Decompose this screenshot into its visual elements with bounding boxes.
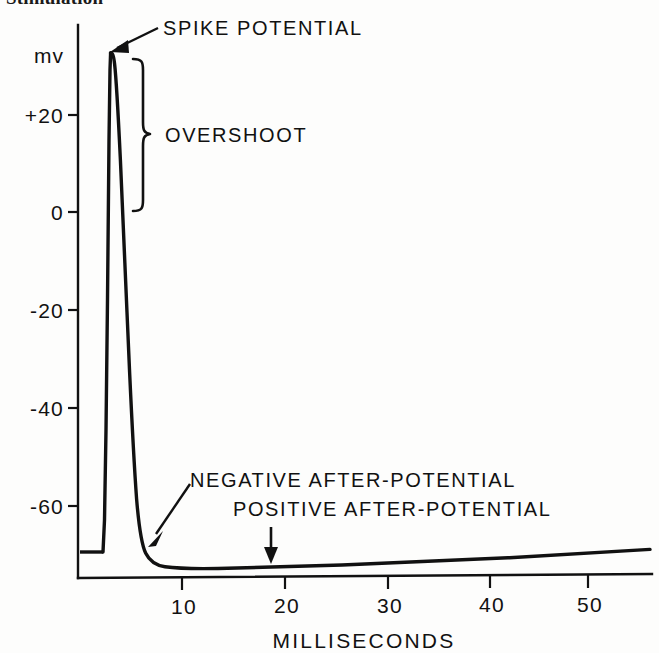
figure-root: Stimulation mv +20 0 -20 -40 -60 (0, 0, 659, 653)
overshoot-brace (133, 59, 150, 211)
trace-depolarisation-limb (103, 53, 111, 552)
y-axis-tick-labels: mv +20 0 -20 -40 -60 (25, 44, 64, 518)
x-axis-line (78, 574, 652, 578)
positive-after-potential-label: POSITIVE AFTER-POTENTIAL (233, 498, 551, 520)
positive-after-potential-annotation: POSITIVE AFTER-POTENTIAL (233, 498, 551, 564)
x-axis-title: MILLISECONDS (273, 629, 456, 652)
negative-after-potential-arrow-shaft (156, 484, 190, 534)
spike-potential-label: SPIKE POTENTIAL (163, 17, 363, 39)
spike-potential-annotation: SPIKE POTENTIAL (110, 17, 363, 53)
x-tick-label-10: 10 (171, 595, 197, 618)
y-tick-label-minus20: -20 (30, 299, 64, 322)
y-tick-label-minus60: -60 (30, 495, 64, 518)
axis-lines (78, 25, 652, 578)
x-axis-tick-labels: 10 20 30 40 50 (171, 593, 603, 618)
spike-potential-arrowhead (110, 40, 129, 53)
overshoot-annotation: OVERSHOOT (133, 59, 307, 211)
negative-after-potential-label: NEGATIVE AFTER-POTENTIAL (190, 469, 516, 491)
x-tick-label-40: 40 (479, 593, 505, 616)
x-tick-label-30: 30 (377, 594, 403, 617)
x-tick-label-20: 20 (274, 594, 300, 617)
overshoot-label: OVERSHOOT (165, 124, 307, 146)
y-axis-unit-label: mv (34, 44, 64, 67)
positive-after-potential-arrowhead (264, 547, 278, 564)
action-potential-chart: mv +20 0 -20 -40 -60 10 20 30 40 50 MILL… (0, 0, 659, 653)
y-tick-label-plus20: +20 (25, 104, 64, 127)
y-tick-label-zero: 0 (51, 201, 64, 224)
x-tick-label-50: 50 (577, 593, 603, 616)
y-tick-label-minus40: -40 (30, 397, 64, 420)
